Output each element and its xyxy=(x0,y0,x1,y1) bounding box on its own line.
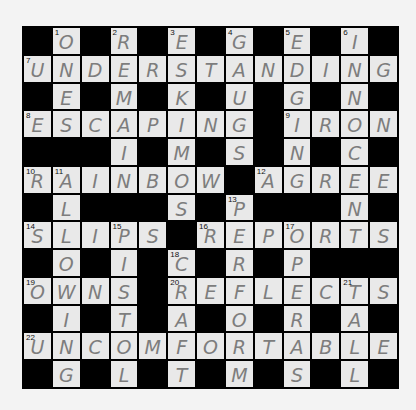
grid-cell[interactable]: R xyxy=(225,332,254,360)
grid-cell[interactable]: W xyxy=(196,166,225,194)
grid-cell[interactable]: E xyxy=(283,277,312,305)
grid-cell[interactable]: O xyxy=(225,305,254,333)
grid-cell[interactable]: P xyxy=(254,221,283,249)
grid-cell[interactable]: L xyxy=(254,277,283,305)
grid-cell[interactable]: B xyxy=(311,332,340,360)
grid-cell[interactable]: N xyxy=(52,55,81,83)
grid-cell[interactable]: O xyxy=(196,332,225,360)
grid-cell[interactable]: L xyxy=(110,360,139,388)
grid-cell[interactable]: 2R xyxy=(110,27,139,55)
grid-cell[interactable]: N xyxy=(52,332,81,360)
grid-cell[interactable]: G xyxy=(283,83,312,111)
grid-cell[interactable]: 10R xyxy=(23,166,52,194)
grid-cell[interactable]: C xyxy=(340,138,369,166)
grid-cell[interactable]: T xyxy=(167,360,196,388)
grid-cell[interactable]: S xyxy=(167,55,196,83)
grid-cell[interactable]: T xyxy=(254,332,283,360)
grid-cell[interactable]: O xyxy=(167,166,196,194)
grid-cell[interactable]: O xyxy=(52,249,81,277)
grid-cell[interactable]: B xyxy=(138,166,167,194)
grid-cell[interactable]: E xyxy=(196,277,225,305)
grid-cell[interactable]: T xyxy=(196,55,225,83)
grid-cell[interactable]: N xyxy=(110,166,139,194)
grid-cell[interactable]: S xyxy=(369,221,398,249)
grid-cell[interactable]: T xyxy=(340,221,369,249)
grid-cell[interactable]: G xyxy=(369,55,398,83)
grid-cell[interactable]: I xyxy=(311,55,340,83)
grid-cell[interactable]: A xyxy=(225,55,254,83)
grid-cell[interactable]: E xyxy=(225,221,254,249)
grid-cell[interactable]: R xyxy=(311,110,340,138)
grid-cell[interactable]: 11A xyxy=(52,166,81,194)
grid-cell[interactable]: S xyxy=(225,138,254,166)
grid-cell[interactable]: O xyxy=(340,110,369,138)
grid-cell[interactable]: N xyxy=(196,110,225,138)
grid-cell[interactable]: G xyxy=(283,166,312,194)
grid-cell[interactable]: 22U xyxy=(23,332,52,360)
grid-cell[interactable]: 12A xyxy=(254,166,283,194)
grid-cell[interactable]: 13P xyxy=(225,194,254,222)
grid-cell[interactable]: 6I xyxy=(340,27,369,55)
grid-cell[interactable]: 16R xyxy=(196,221,225,249)
grid-cell[interactable]: 4G xyxy=(225,27,254,55)
grid-cell[interactable]: 19O xyxy=(23,277,52,305)
grid-cell[interactable]: R xyxy=(311,166,340,194)
grid-cell[interactable]: L xyxy=(52,194,81,222)
grid-cell[interactable]: E xyxy=(110,55,139,83)
grid-cell[interactable]: 7U xyxy=(23,55,52,83)
grid-cell[interactable]: 18C xyxy=(167,249,196,277)
grid-cell[interactable]: R xyxy=(225,249,254,277)
grid-cell[interactable]: F xyxy=(225,277,254,305)
grid-cell[interactable]: A xyxy=(167,305,196,333)
grid-cell[interactable]: 14S xyxy=(23,221,52,249)
grid-cell[interactable]: 21T xyxy=(340,277,369,305)
grid-cell[interactable]: 5E xyxy=(283,27,312,55)
grid-cell[interactable]: C xyxy=(81,110,110,138)
grid-cell[interactable]: N xyxy=(340,83,369,111)
grid-cell[interactable]: U xyxy=(225,83,254,111)
grid-cell[interactable]: S xyxy=(138,221,167,249)
grid-cell[interactable]: 17O xyxy=(283,221,312,249)
grid-cell[interactable]: E xyxy=(369,166,398,194)
grid-cell[interactable]: M xyxy=(225,360,254,388)
grid-cell[interactable]: F xyxy=(167,332,196,360)
grid-cell[interactable]: E xyxy=(52,83,81,111)
grid-cell[interactable]: N xyxy=(340,55,369,83)
grid-cell[interactable]: I xyxy=(110,249,139,277)
grid-cell[interactable]: D xyxy=(283,55,312,83)
grid-cell[interactable]: P xyxy=(138,110,167,138)
grid-cell[interactable]: L xyxy=(340,360,369,388)
grid-cell[interactable]: I xyxy=(81,221,110,249)
grid-cell[interactable]: N xyxy=(81,277,110,305)
grid-cell[interactable]: W xyxy=(52,277,81,305)
grid-cell[interactable]: A xyxy=(340,305,369,333)
grid-cell[interactable]: D xyxy=(81,55,110,83)
grid-cell[interactable]: S xyxy=(283,360,312,388)
grid-cell[interactable]: I xyxy=(81,166,110,194)
grid-cell[interactable]: R xyxy=(311,221,340,249)
grid-cell[interactable]: S xyxy=(167,194,196,222)
grid-cell[interactable]: 1O xyxy=(52,27,81,55)
grid-cell[interactable]: I xyxy=(52,305,81,333)
grid-cell[interactable]: C xyxy=(311,277,340,305)
grid-cell[interactable]: M xyxy=(138,332,167,360)
grid-cell[interactable]: P xyxy=(283,249,312,277)
grid-cell[interactable]: A xyxy=(283,332,312,360)
grid-cell[interactable]: R xyxy=(283,305,312,333)
grid-cell[interactable]: L xyxy=(52,221,81,249)
grid-cell[interactable]: G xyxy=(225,110,254,138)
grid-cell[interactable]: N xyxy=(340,194,369,222)
grid-cell[interactable]: O xyxy=(110,332,139,360)
grid-cell[interactable]: N xyxy=(283,138,312,166)
grid-cell[interactable]: N xyxy=(369,110,398,138)
grid-cell[interactable]: S xyxy=(52,110,81,138)
grid-cell[interactable]: E xyxy=(369,332,398,360)
grid-cell[interactable]: K xyxy=(167,83,196,111)
grid-cell[interactable]: 15P xyxy=(110,221,139,249)
grid-cell[interactable]: I xyxy=(167,110,196,138)
grid-cell[interactable]: C xyxy=(81,332,110,360)
grid-cell[interactable]: 9I xyxy=(283,110,312,138)
grid-cell[interactable]: L xyxy=(340,332,369,360)
grid-cell[interactable]: 3E xyxy=(167,27,196,55)
grid-cell[interactable]: A xyxy=(110,110,139,138)
